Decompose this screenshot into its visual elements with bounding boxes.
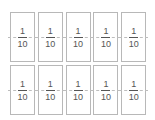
- fraction-card: 110: [66, 12, 91, 62]
- fraction-card: 110: [121, 65, 146, 115]
- numerator: 1: [130, 26, 137, 36]
- numerator: 1: [19, 26, 26, 36]
- fraction: 110: [39, 26, 62, 49]
- fraction: 110: [67, 79, 90, 102]
- fraction-bar: [129, 90, 138, 91]
- numerator: 1: [19, 79, 26, 89]
- fraction: 110: [11, 26, 34, 49]
- fraction-bar: [46, 37, 55, 38]
- fraction-card: 110: [93, 12, 118, 62]
- fraction: 110: [94, 79, 117, 102]
- fraction: 110: [11, 79, 34, 102]
- fraction-card: 110: [38, 12, 63, 62]
- fraction-bar: [129, 37, 138, 38]
- fraction-card: 110: [38, 65, 63, 115]
- fraction-card: 110: [93, 65, 118, 115]
- fraction-bar: [46, 90, 55, 91]
- fraction: 110: [94, 26, 117, 49]
- fraction: 110: [39, 79, 62, 102]
- denominator: 10: [72, 92, 84, 102]
- numerator: 1: [102, 26, 109, 36]
- numerator: 1: [102, 79, 109, 89]
- fraction-card: 110: [121, 12, 146, 62]
- fraction-bar: [74, 90, 83, 91]
- fraction-card: 110: [10, 12, 35, 62]
- denominator: 10: [128, 39, 140, 49]
- fraction-card: 110: [10, 65, 35, 115]
- fraction-bar: [18, 90, 27, 91]
- denominator: 10: [128, 92, 140, 102]
- denominator: 10: [72, 39, 84, 49]
- numerator: 1: [75, 79, 82, 89]
- numerator: 1: [47, 26, 54, 36]
- fraction: 110: [122, 79, 145, 102]
- denominator: 10: [44, 92, 56, 102]
- numerator: 1: [130, 79, 137, 89]
- fraction-bar: [101, 90, 110, 91]
- denominator: 10: [16, 92, 28, 102]
- fraction-bar: [18, 37, 27, 38]
- denominator: 10: [44, 39, 56, 49]
- fraction-card-grid: 110 110 110 110 110 110 110 110 110 110: [10, 12, 146, 115]
- fraction-card: 110: [66, 65, 91, 115]
- denominator: 10: [100, 92, 112, 102]
- fraction: 110: [67, 26, 90, 49]
- numerator: 1: [47, 79, 54, 89]
- denominator: 10: [100, 39, 112, 49]
- numerator: 1: [75, 26, 82, 36]
- denominator: 10: [16, 39, 28, 49]
- fraction-bar: [101, 37, 110, 38]
- fraction-bar: [74, 37, 83, 38]
- fraction: 110: [122, 26, 145, 49]
